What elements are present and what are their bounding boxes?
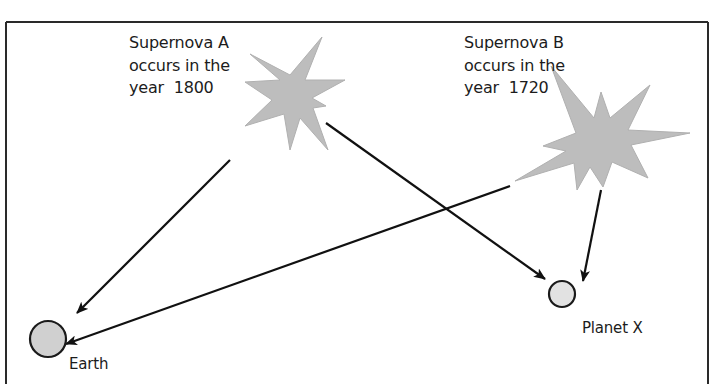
supernova-a-star-icon (245, 37, 345, 150)
arrow-b-to-planet-x (583, 190, 601, 281)
supernova-b-label-line-3: year 1720 (464, 77, 565, 100)
supernova-a-label-line-1: Supernova A (129, 32, 230, 55)
earth-label: Earth (69, 353, 108, 375)
supernova-b-label: Supernova B occurs in the year 1720 (464, 32, 565, 100)
arrow-b-to-earth (66, 186, 510, 344)
light-paths (66, 123, 601, 344)
arrow-a-to-earth (77, 160, 230, 313)
supernova-b-label-line-2: occurs in the (464, 55, 565, 78)
planet-x-icon (549, 281, 575, 307)
supernova-a-label-line-2: occurs in the (129, 55, 230, 78)
planet-x-label: Planet X (582, 317, 642, 339)
supernova-b-label-line-1: Supernova B (464, 32, 565, 55)
supernova-a-label: Supernova A occurs in the year 1800 (129, 32, 230, 100)
supernova-light-travel-diagram: Supernova A occurs in the year 1800 Supe… (0, 0, 719, 384)
supernova-a-label-line-3: year 1800 (129, 77, 230, 100)
arrow-a-to-planet-x (326, 123, 545, 279)
earth-icon (30, 321, 66, 357)
